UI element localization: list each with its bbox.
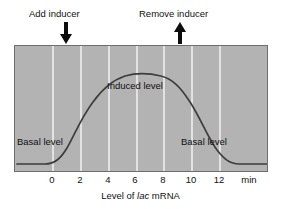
add-inducer-label: Add inducer [29,8,80,19]
xtick-label-0: 0 [49,174,54,185]
xaxis-unit-label: min [241,174,256,185]
xtick-label-2: 2 [77,174,82,185]
xtick-label-10: 10 [186,174,197,185]
basal-level-right-label: Basal level [181,136,227,147]
basal-level-left-label: Basal level [17,136,63,147]
x-axis-title: Level of lac mRNA [0,190,281,201]
xtick-label-6: 6 [132,174,137,185]
remove-inducer-label: Remove inducer [139,8,208,19]
induced-level-label: Induced level [107,80,163,91]
axis-title-prefix: Level of [101,190,137,201]
arrow-down-icon [59,22,73,44]
mrna-level-curve [15,46,268,172]
plot-area [14,45,268,172]
xtick-label-12: 12 [214,174,225,185]
xtick-label-8: 8 [160,174,165,185]
axis-title-suffix: mRNA [149,190,180,201]
lac-mrna-induction-figure: Add inducer Remove inducer Induced level… [0,0,281,209]
xtick-label-4: 4 [105,174,110,185]
arrow-up-icon [173,22,187,44]
axis-title-gene-name: lac [137,190,149,201]
